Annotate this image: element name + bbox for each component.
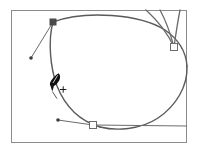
- artboard-background: [11, 10, 187, 143]
- vector-canvas[interactable]: [0, 0, 199, 155]
- anchor-point-top-left[interactable]: [50, 19, 56, 25]
- anchor-point-bottom[interactable]: [90, 122, 97, 129]
- direction-handle-dot-top-left[interactable]: [29, 56, 33, 60]
- screenshot-root: Vector Path Editor Canvas pen-tool pen-t…: [0, 0, 199, 155]
- direction-handle-dot-bottom-left[interactable]: [56, 118, 60, 122]
- anchor-point-right[interactable]: [171, 44, 178, 51]
